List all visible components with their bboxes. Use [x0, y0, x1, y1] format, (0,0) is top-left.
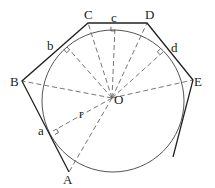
right-angle-mark-d [157, 49, 160, 55]
vertex-label-C: C [84, 7, 93, 22]
tangent-label-d: d [171, 40, 178, 55]
dashed-line-O-E [112, 80, 193, 98]
tangent-label-b: b [47, 38, 54, 53]
dashed-line-O-D [112, 23, 147, 98]
radius-label: r [79, 106, 84, 121]
tangent-label-c: c [111, 10, 117, 25]
dashed-line-O-b [67, 47, 112, 98]
center-label-O: O [114, 92, 123, 107]
dashed-line-O-C [88, 23, 112, 98]
inscribed-circle [42, 30, 184, 172]
vertex-label-B: B [10, 74, 19, 89]
right-angle-mark-b [64, 50, 70, 53]
dashed-line-O-A [69, 98, 112, 172]
point-labels: ABCDEabcdOr [10, 7, 202, 187]
right-angle-marks [55, 27, 160, 135]
vertex-label-E: E [194, 74, 202, 89]
diagram: ABCDEabcdOr [0, 0, 215, 188]
vertex-label-A: A [63, 172, 73, 187]
dashed-line-O-c [112, 27, 115, 98]
dashed-line-O-B [22, 81, 112, 98]
tangent-label-a: a [38, 123, 44, 138]
vertex-label-D: D [145, 7, 154, 22]
geometry-figure: ABCDEabcdOr [0, 0, 215, 188]
